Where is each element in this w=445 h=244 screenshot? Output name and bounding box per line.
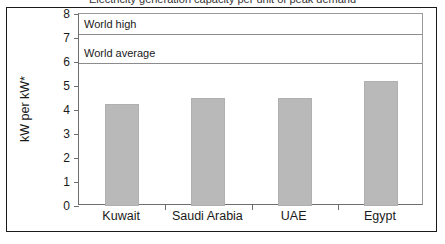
y-axis-tick-mark <box>74 110 79 111</box>
clipped-figure-title: Electricity generation capacity per unit… <box>0 0 445 6</box>
reference-line-label: World average <box>84 47 155 59</box>
y-axis-tick-label: 4 <box>19 104 79 116</box>
x-axis-category-label: Egypt <box>337 209 423 223</box>
chart-figure: Electricity generation capacity per unit… <box>0 0 445 244</box>
y-axis-tick-label: 1 <box>19 176 79 188</box>
plot-area: 012345678World highWorld average <box>78 13 423 205</box>
y-axis-tick-label: 5 <box>19 80 79 92</box>
y-axis-tick-label: 0 <box>19 200 79 212</box>
y-axis-tick-mark <box>74 86 79 87</box>
y-axis-tick-mark <box>74 14 79 15</box>
bar <box>278 98 312 206</box>
y-axis-tick-label: 6 <box>19 56 79 68</box>
y-axis-tick-mark <box>74 134 79 135</box>
y-axis-tick-label: 8 <box>19 8 79 20</box>
y-axis-tick-mark <box>74 182 79 183</box>
y-axis-tick-mark <box>74 158 79 159</box>
bar <box>105 104 139 206</box>
y-axis-tick-label: 3 <box>19 128 79 140</box>
x-axis-category-label: UAE <box>251 209 337 223</box>
reference-line-world-average <box>79 63 422 64</box>
y-axis-tick-mark <box>74 206 79 207</box>
y-axis-tick-mark <box>74 38 79 39</box>
bar <box>364 81 398 206</box>
y-axis-tick-label: 7 <box>19 32 79 44</box>
y-axis-tick-label: 2 <box>19 152 79 164</box>
bar <box>191 98 225 206</box>
x-axis-category-label: Kuwait <box>78 209 164 223</box>
reference-line-world-high <box>79 34 422 35</box>
x-axis-category-label: Saudi Arabia <box>164 209 250 223</box>
reference-line-label: World high <box>84 18 136 30</box>
